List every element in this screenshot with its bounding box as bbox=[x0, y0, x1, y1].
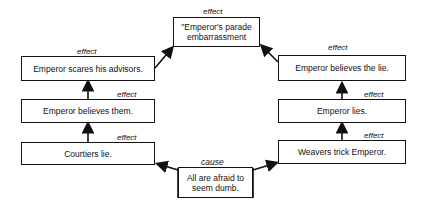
left-box-3: Courtiers lie. bbox=[21, 142, 155, 165]
bottom-box: All are afraid to seem dumb. bbox=[178, 167, 253, 198]
left-label-1: effect bbox=[77, 47, 97, 56]
left-text-1: Emperor scares his advisors. bbox=[33, 64, 143, 74]
right-label-1: effect bbox=[328, 43, 348, 52]
right-text-2: Emperor lies. bbox=[317, 106, 367, 116]
top-label: effect bbox=[203, 7, 223, 16]
top-box: "Emperor's parade embarrassment bbox=[173, 17, 260, 47]
left-text-2: Emperor believes them. bbox=[43, 106, 133, 116]
right-text-1: Emperor believes the lie. bbox=[295, 63, 389, 73]
right-box-2: Emperor lies. bbox=[278, 99, 406, 123]
bottom-text: All are afraid to seem dumb. bbox=[183, 173, 248, 193]
left-label-2: effect bbox=[117, 90, 137, 99]
right-label-3: effect bbox=[364, 131, 384, 140]
bottom-label: cause bbox=[201, 157, 224, 167]
left-box-1: Emperor scares his advisors. bbox=[21, 56, 155, 81]
left-box-2: Emperor believes them. bbox=[21, 99, 155, 123]
left-text-3: Courtiers lie. bbox=[64, 149, 112, 159]
left-label-3: effect bbox=[117, 133, 137, 142]
right-box-3: Weavers trick Emperor. bbox=[278, 140, 406, 164]
right-text-3: Weavers trick Emperor. bbox=[298, 147, 386, 157]
right-label-2: effect bbox=[364, 90, 384, 99]
right-box-1: Emperor believes the lie. bbox=[278, 55, 406, 81]
top-text: "Emperor's parade embarrassment bbox=[174, 22, 259, 42]
